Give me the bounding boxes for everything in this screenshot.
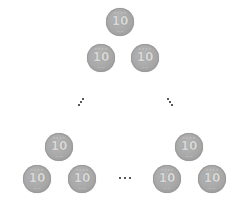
coin-bottom-inscription: — — (131, 65, 159, 69)
coin-value: 10 (23, 172, 51, 185)
coin-value: 10 (175, 140, 203, 153)
coin-right-group-bottom-right: • • • •10— — (198, 165, 226, 193)
coin-value: 10 (131, 51, 159, 64)
coin-bottom-inscription: — — (175, 154, 203, 158)
coin-left-group-top: • • • •10— — (45, 133, 73, 161)
right-diagonal-dot (171, 104, 173, 106)
right-diagonal-dot (167, 98, 169, 100)
bottom-ellipsis-dot (124, 177, 126, 179)
coin-value: 10 (198, 172, 226, 185)
left-diagonal-dot (78, 104, 80, 106)
coin-left-group-bottom-right: • • • •10— — (68, 165, 96, 193)
coin-bottom-inscription: — — (153, 186, 181, 190)
coin-right-group-bottom-left: • • • •10— — (153, 165, 181, 193)
bottom-ellipsis-dot (119, 177, 121, 179)
left-diagonal-dot (82, 98, 84, 100)
coin-right-group-top: • • • •10— — (175, 133, 203, 161)
coin-bottom-inscription: — — (87, 65, 115, 69)
coin-bottom-inscription: — — (68, 186, 96, 190)
coin-value: 10 (153, 172, 181, 185)
coin-row2-right: • • • •10— — (131, 44, 159, 72)
coin-bottom-inscription: — — (45, 154, 73, 158)
left-diagonal-dot (80, 101, 82, 103)
coin-value: 10 (68, 172, 96, 185)
coin-row2-left: • • • •10— — (87, 44, 115, 72)
bottom-ellipsis-dot (129, 177, 131, 179)
coin-value: 10 (87, 51, 115, 64)
coin-bottom-inscription: — — (198, 186, 226, 190)
right-diagonal-dot (169, 101, 171, 103)
coin-bottom-inscription: — — (23, 186, 51, 190)
coin-left-group-bottom-left: • • • •10— — (23, 165, 51, 193)
coin-bottom-inscription: — — (106, 29, 134, 33)
coin-value: 10 (106, 15, 134, 28)
coin-value: 10 (45, 140, 73, 153)
coin-apex: • • • •10— — (106, 8, 134, 36)
